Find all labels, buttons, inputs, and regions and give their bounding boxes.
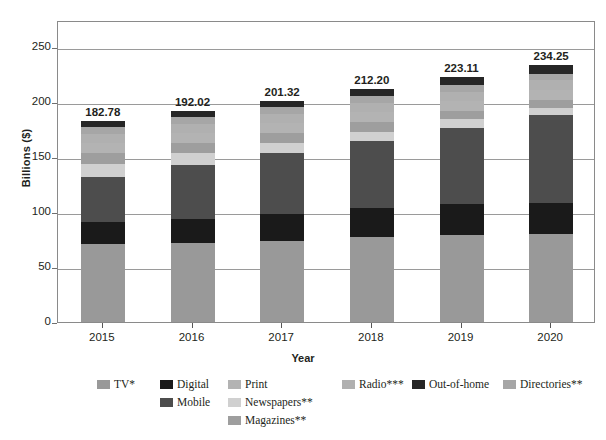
bar-segment-out-of-home (350, 89, 394, 96)
bar-stack-2016[interactable]: 192.02 (171, 111, 215, 322)
legend-label: Mobile (177, 397, 210, 409)
bar-segment-radio (81, 134, 125, 143)
bar-stack-2020[interactable]: 234.25 (529, 65, 573, 322)
x-axis-tick-label: 2018 (336, 331, 406, 343)
bar-segment-magazines (81, 153, 125, 164)
y-axis-tick-label: 150 (11, 150, 51, 162)
bar-segment-mobile (260, 153, 304, 214)
plot-area: 182.78192.02201.32212.20223.11234.25 (57, 21, 595, 323)
bar-segment-directories (171, 117, 215, 124)
bar-segment-mobile (440, 128, 484, 204)
bar-segment-tv (350, 237, 394, 322)
y-axis-tick-mark (52, 213, 57, 214)
bar-total-label: 223.11 (444, 62, 479, 74)
legend-swatch (160, 398, 173, 407)
bar-segment-print (81, 143, 125, 153)
bar-segment-radio (529, 80, 573, 89)
legend-label: Newspapers** (245, 397, 313, 409)
bar-segment-radio (440, 92, 484, 101)
y-axis-tick-mark (52, 48, 57, 49)
bar-segment-tv (81, 244, 125, 322)
bar-segment-newspapers (440, 119, 484, 127)
bar-stack-2019[interactable]: 223.11 (440, 77, 484, 322)
bar-segment-digital (350, 208, 394, 237)
bar-segment-directories (260, 107, 304, 114)
legend-item-tv[interactable]: TV* (97, 379, 135, 391)
bar-segment-directories (350, 96, 394, 103)
bar-segment-tv (260, 241, 304, 322)
bar-total-label: 234.25 (534, 50, 569, 62)
bar-segment-radio (260, 114, 304, 123)
x-axis-tick-mark (192, 323, 193, 328)
y-axis-tick-mark (52, 103, 57, 104)
legend-item-digital[interactable]: Digital (160, 379, 209, 391)
bar-segment-tv (171, 243, 215, 322)
x-axis-tick-label: 2020 (515, 331, 585, 343)
bar-segment-radio (171, 124, 215, 133)
bar-segment-magazines (440, 111, 484, 120)
bar-segment-magazines (529, 100, 573, 108)
legend-item-mobile[interactable]: Mobile (160, 397, 210, 409)
y-axis-tick-mark (52, 323, 57, 324)
legend-swatch (342, 380, 355, 389)
legend-swatch (503, 380, 516, 389)
x-axis-tick-label: 2019 (426, 331, 496, 343)
bar-segment-mobile (171, 165, 215, 219)
bar-total-label: 192.02 (175, 96, 210, 108)
legend-swatch (228, 416, 241, 425)
bar-segment-digital (81, 222, 125, 245)
y-axis-tick-label: 50 (11, 260, 51, 272)
bar-segment-newspapers (260, 143, 304, 153)
bar-segment-out-of-home (440, 77, 484, 85)
x-axis-tick-label: 2016 (157, 331, 227, 343)
legend-item-radio[interactable]: Radio*** (342, 379, 404, 391)
x-axis-tick-label: 2017 (246, 331, 316, 343)
bar-stack-2015[interactable]: 182.78 (81, 121, 125, 322)
bar-stack-2018[interactable]: 212.20 (350, 89, 394, 322)
legend-label: Digital (177, 379, 209, 391)
legend-item-print[interactable]: Print (228, 379, 267, 391)
x-axis-tick-mark (102, 323, 103, 328)
bar-segment-newspapers (171, 153, 215, 165)
legend-item-directories[interactable]: Directories** (503, 379, 583, 391)
bar-segment-magazines (260, 133, 304, 143)
bar-total-label: 201.32 (265, 86, 300, 98)
bar-segment-directories (529, 74, 573, 81)
x-axis-tick-mark (461, 323, 462, 328)
legend-label: Directories** (520, 379, 583, 391)
legend-swatch (160, 380, 173, 389)
bar-stack-2017[interactable]: 201.32 (260, 101, 304, 322)
x-axis-title: Year (0, 352, 606, 364)
bar-segment-tv (529, 234, 573, 322)
legend-swatch (228, 380, 241, 389)
legend-swatch (412, 380, 425, 389)
bar-segment-print (350, 112, 394, 122)
y-axis-tick-mark (52, 268, 57, 269)
legend-item-magazines[interactable]: Magazines** (228, 415, 306, 427)
bar-segment-print (440, 101, 484, 111)
legend-label: TV* (114, 379, 135, 391)
x-axis-tick-mark (371, 323, 372, 328)
bar-segment-newspapers (350, 132, 394, 141)
legend-label: Print (245, 379, 267, 391)
legend-swatch (97, 380, 110, 389)
legend-item-out-of-home[interactable]: Out-of-home (412, 379, 489, 391)
bar-total-label: 212.20 (354, 74, 389, 86)
bar-segment-magazines (171, 143, 215, 153)
legend-item-newspapers[interactable]: Newspapers** (228, 397, 313, 409)
bar-segment-print (529, 90, 573, 100)
bar-segment-print (171, 133, 215, 143)
bar-segment-tv (440, 235, 484, 322)
bar-segment-mobile (81, 177, 125, 222)
bar-segment-digital (171, 219, 215, 243)
y-axis-tick-label: 0 (11, 315, 51, 327)
y-axis-tick-label: 250 (11, 40, 51, 52)
bar-segment-out-of-home (529, 65, 573, 74)
bar-series-container: 182.78192.02201.32212.20223.11234.25 (58, 22, 594, 322)
bar-segment-newspapers (529, 108, 573, 115)
chart-legend: TV*DigitalPrintRadio***Out-of-homeDirect… (0, 379, 606, 437)
y-axis-tick-mark (52, 158, 57, 159)
legend-swatch (228, 398, 241, 407)
bar-segment-print (260, 123, 304, 133)
bar-segment-directories (81, 127, 125, 135)
